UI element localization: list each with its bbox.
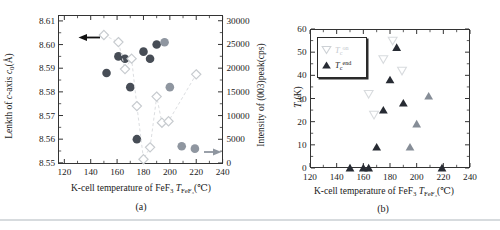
- tick-label: 120: [57, 167, 71, 177]
- tick-label: 8.61: [39, 16, 55, 26]
- data-point-diamond: [127, 54, 136, 63]
- panel-a-xlabel: K-cell temperature of FeF3 TFeF₃(℃): [71, 182, 211, 193]
- legend-box: Tcon Tcend: [317, 37, 367, 78]
- tick-label: 15000: [227, 87, 250, 97]
- data-point-diamond: [139, 155, 148, 164]
- tick-label: 140: [84, 167, 98, 177]
- data-point-triangle-up: [379, 106, 388, 114]
- tick-label: 5000: [227, 134, 246, 144]
- tick-label: 200: [410, 172, 424, 182]
- data-point-triangle-down: [364, 90, 373, 98]
- legend-item-tc-onset: Tcon: [321, 45, 363, 55]
- data-point-triangle-down: [398, 67, 407, 75]
- tick-label: 220: [436, 172, 450, 182]
- data-point-triangle-up: [372, 143, 381, 151]
- data-point-triangle-down: [379, 56, 388, 64]
- tick-label: 25000: [227, 39, 250, 49]
- data-point-triangle-up: [412, 120, 421, 128]
- data-point-diamond: [132, 101, 141, 110]
- data-point-circle: [146, 54, 155, 63]
- data-point-triangle-down: [388, 37, 397, 45]
- data-point-diamond: [99, 30, 108, 39]
- triangle-up-filled-icon: [321, 60, 332, 70]
- tick-label: 8.57: [39, 111, 55, 121]
- tick-label: 140: [330, 172, 344, 182]
- tick-label: 8.56: [39, 134, 55, 144]
- data-point-triangle-up: [406, 143, 415, 151]
- left-axis-arrow: [79, 34, 101, 41]
- tick-label: 200: [163, 167, 177, 177]
- data-point-circle: [152, 40, 161, 49]
- tick-label: 8.59: [39, 63, 55, 73]
- panel-a-caption: (a): [135, 201, 146, 212]
- legend-label-tc-onset: Tcon: [335, 45, 349, 55]
- data-point-circle: [139, 47, 148, 56]
- tick-label: 20000: [227, 63, 250, 73]
- legend-item-tc-end: Tcend: [321, 60, 363, 70]
- tick-label: 0: [302, 163, 307, 173]
- tick-label: 0: [227, 158, 232, 168]
- tick-label: 180: [383, 172, 397, 182]
- panel-a-ylabel-right: Intensity of (003)peak(cps): [256, 43, 266, 146]
- right-axis-arrow: [204, 149, 222, 156]
- tick-label: 240: [463, 172, 477, 182]
- tick-label: 60: [297, 24, 307, 34]
- data-point-circle: [126, 83, 135, 92]
- panel-b-xlabel: K-cell temperature of FeF3 TFeF₃(℃): [314, 185, 454, 196]
- data-point-diamond: [114, 37, 123, 46]
- series-c-axis-length-c0: [102, 38, 199, 153]
- page-rule-divider: [0, 219, 500, 221]
- tick-label: 240: [216, 167, 230, 177]
- tick-label: 40: [297, 70, 307, 80]
- tick-label: 20: [297, 117, 307, 127]
- tick-label: 220: [189, 167, 203, 177]
- tick-label: 180: [137, 167, 151, 177]
- tick-label: 50: [297, 47, 307, 57]
- data-point-diamond: [152, 92, 161, 101]
- tick-label: 10: [297, 140, 307, 150]
- tick-label: 160: [356, 172, 370, 182]
- series-(003)-peak-intensity: [99, 30, 201, 163]
- panel-a-ylabel-left: Lenkth of c-axis c0(Å): [4, 53, 14, 138]
- data-point-diamond: [120, 65, 129, 74]
- data-point-circle: [191, 144, 200, 153]
- data-point-triangle-up: [386, 76, 395, 84]
- panel-b-caption: (b): [377, 203, 389, 214]
- data-point-circle: [166, 83, 175, 92]
- legend-label-tc-end: Tcend: [335, 60, 351, 70]
- data-point-circle: [177, 142, 186, 151]
- panel-b-ylabel: Tc(K): [293, 86, 303, 108]
- data-point-triangle-up: [424, 92, 433, 100]
- tick-label: 30000: [227, 16, 250, 26]
- data-point-triangle-up: [392, 43, 401, 51]
- data-point-diamond: [192, 70, 201, 79]
- data-point-circle: [133, 135, 142, 144]
- data-point-triangle-up: [399, 99, 408, 107]
- data-point-diamond: [145, 143, 154, 152]
- data-point-circle: [102, 69, 111, 78]
- data-point-triangle-down: [370, 111, 379, 119]
- tick-label: 8.55: [39, 158, 55, 168]
- triangle-down-open-icon: [321, 45, 332, 55]
- data-point-circle: [160, 38, 169, 47]
- tick-label: 160: [110, 167, 124, 177]
- tick-label: 8.60: [39, 40, 55, 50]
- tick-label: 10000: [227, 111, 250, 121]
- tick-label: 8.58: [39, 87, 55, 97]
- tick-label: 120: [303, 172, 317, 182]
